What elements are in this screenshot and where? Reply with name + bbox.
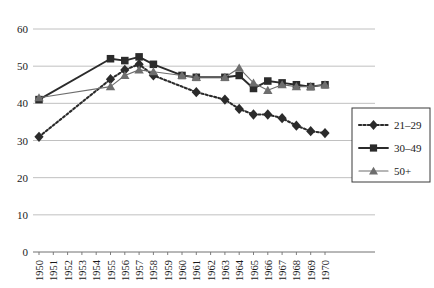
x-tick-label: 1954 — [91, 259, 102, 281]
y-tick-label: 10 — [17, 209, 29, 221]
data-point-square — [235, 72, 243, 80]
x-tick-label: 1960 — [177, 260, 188, 281]
x-tick-label: 1957 — [134, 260, 145, 281]
data-point-square — [264, 77, 272, 85]
x-axis-tick-labels: 1950195119521953195419551956195719581959… — [34, 259, 331, 281]
x-tick-label: 1959 — [163, 260, 174, 281]
x-tick-label: 1965 — [249, 260, 260, 281]
x-axis-ticks — [39, 252, 325, 255]
x-tick-label: 1970 — [320, 260, 331, 281]
x-tick-label: 1967 — [277, 260, 288, 281]
x-tick-label: 1968 — [291, 260, 302, 281]
legend-label-30–49: 30–49 — [394, 142, 422, 154]
x-tick-label: 1966 — [263, 260, 274, 281]
y-tick-label: 20 — [17, 172, 29, 184]
chart-legend: 21–2930–4950+ — [352, 108, 430, 182]
x-tick-label: 1955 — [106, 260, 117, 281]
chart-container: 0102030405060 19501951195219531954195519… — [0, 0, 434, 288]
x-tick-label: 1964 — [234, 259, 245, 281]
x-tick-label: 1958 — [148, 260, 159, 281]
line-chart: 0102030405060 19501951195219531954195519… — [0, 0, 434, 288]
data-point-square — [135, 53, 143, 61]
x-tick-label: 1961 — [191, 260, 202, 281]
x-tick-label: 1951 — [48, 260, 59, 281]
legend-label-21–29: 21–29 — [394, 119, 422, 131]
data-point-square — [107, 55, 115, 63]
data-point-square — [150, 61, 158, 69]
x-tick-label: 1962 — [206, 260, 217, 281]
x-tick-label: 1969 — [306, 260, 317, 281]
x-tick-label: 1950 — [34, 260, 45, 281]
y-tick-label: 0 — [23, 246, 29, 258]
x-tick-label: 1963 — [220, 260, 231, 281]
y-tick-label: 40 — [17, 97, 29, 109]
data-point-square — [121, 57, 129, 65]
y-tick-label: 60 — [17, 23, 29, 35]
data-point-square — [370, 144, 377, 151]
y-tick-label: 50 — [17, 60, 29, 72]
y-tick-label: 30 — [17, 135, 29, 147]
x-tick-label: 1952 — [63, 260, 74, 281]
legend-label-50+: 50+ — [394, 165, 411, 177]
x-tick-label: 1956 — [120, 260, 131, 281]
x-tick-label: 1953 — [77, 260, 88, 281]
